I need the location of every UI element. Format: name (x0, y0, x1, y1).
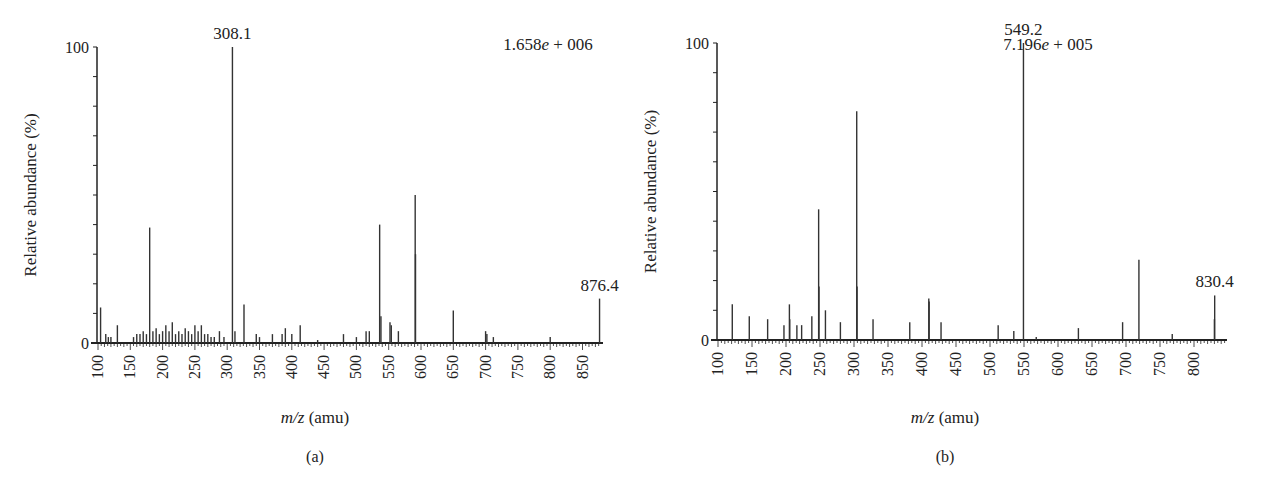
y-axis-label: Relative abundance (%) (641, 110, 660, 273)
panel-label: (a) (306, 448, 324, 466)
y-axis-label: Relative abundance (%) (21, 113, 40, 276)
x-tick-label: 400 (283, 355, 300, 379)
x-axis-label: m/z (amu) (911, 408, 979, 427)
x-axis-label: m/z (amu) (281, 408, 349, 427)
x-tick-label: 250 (186, 355, 203, 379)
panel-label: (b) (936, 448, 955, 466)
x-tick-label: 150 (743, 352, 760, 376)
x-tick-label: 250 (811, 352, 828, 376)
x-tick-label: 300 (218, 355, 235, 379)
x-tick-label: 650 (1083, 352, 1100, 376)
x-tick-label: 450 (315, 355, 332, 379)
mass-spectrum-chart-a: 0100Relative abundance (%)10015020025030… (0, 0, 630, 489)
x-tick-label: 600 (412, 355, 429, 379)
x-tick-label: 700 (477, 355, 494, 379)
x-tick-label: 400 (913, 352, 930, 376)
x-tick-label: 200 (777, 352, 794, 376)
chart-panel-a: 0100Relative abundance (%)10015020025030… (0, 0, 630, 489)
x-tick-label: 750 (509, 355, 526, 379)
peak-label: 549.2 (1004, 20, 1042, 39)
x-tick-label: 150 (121, 355, 138, 379)
x-tick-label: 850 (574, 355, 591, 379)
x-tick-label: 800 (541, 355, 558, 379)
y-tick-label-0: 0 (701, 332, 709, 349)
x-tick-label: 500 (347, 355, 364, 379)
x-tick-label: 200 (154, 355, 171, 379)
x-tick-label: 550 (380, 355, 397, 379)
x-tick-label: 550 (1015, 352, 1032, 376)
mass-spectrum-chart-b: 0100Relative abundance (%)10015020025030… (630, 0, 1267, 489)
x-tick-label: 350 (251, 355, 268, 379)
y-tick-label-0: 0 (81, 335, 89, 352)
x-tick-label: 300 (845, 352, 862, 376)
y-tick-label-100: 100 (65, 39, 89, 56)
x-tick-label: 450 (947, 352, 964, 376)
x-tick-label: 100 (709, 352, 726, 376)
intensity-label: 1.658e + 006 (503, 35, 592, 54)
x-tick-label: 600 (1049, 352, 1066, 376)
x-tick-label: 750 (1151, 352, 1168, 376)
x-tick-label: 500 (981, 352, 998, 376)
peak-label: 876.4 (580, 276, 619, 295)
x-tick-label: 800 (1185, 352, 1202, 376)
x-tick-label: 350 (879, 352, 896, 376)
peak-label: 830.4 (1196, 272, 1235, 291)
y-tick-label-100: 100 (685, 35, 709, 52)
peak-label: 308.1 (213, 24, 251, 43)
x-tick-label: 700 (1117, 352, 1134, 376)
chart-panel-b: 0100Relative abundance (%)10015020025030… (630, 0, 1267, 489)
x-tick-label: 100 (89, 355, 106, 379)
x-tick-label: 650 (444, 355, 461, 379)
